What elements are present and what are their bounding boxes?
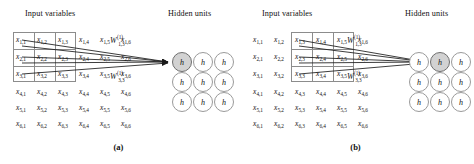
panel-a-caption: (a) (0, 142, 237, 152)
panel-a: Input variables Hidden units x1,1x1,2x1,… (0, 0, 237, 164)
panel-b-caption: (b) (237, 142, 474, 152)
hidden-unit-label: h (201, 78, 205, 87)
hidden-unit-label: h (222, 78, 226, 87)
hidden-unit-label: h (459, 78, 463, 87)
panel-b-hidden-unit-1-2-active: h (430, 52, 450, 72)
panel-a-hidden-unit-3-2: h (193, 92, 213, 112)
panel-a-hidden-unit-3-1: h (172, 92, 192, 112)
panel-a-hidden-unit-2-2: h (193, 72, 213, 92)
hidden-unit-label: h (180, 78, 184, 87)
panel-b-hidden-unit-3-2: h (430, 92, 450, 112)
hidden-unit-label: h (438, 78, 442, 87)
hidden-unit-label: h (180, 98, 184, 107)
panel-a-hidden-unit-1-2: h (193, 52, 213, 72)
panel-b-hidden-unit-1-1: h (409, 52, 429, 72)
hidden-unit-label: h (459, 98, 463, 107)
panel-b-hidden-unit-3-1: h (409, 92, 429, 112)
hidden-unit-label: h (438, 58, 442, 67)
hidden-unit-label: h (222, 98, 226, 107)
panel-b-hidden-unit-1-3: h (451, 52, 471, 72)
panel-a-hidden-unit-3-3: h (214, 92, 234, 112)
panel-a-hidden-unit-2-3: h (214, 72, 234, 92)
panel-a-hidden-unit-2-1: h (172, 72, 192, 92)
hidden-unit-label: h (459, 58, 463, 67)
hidden-unit-label: h (222, 58, 226, 67)
panel-a-hidden-unit-1-3: h (214, 52, 234, 72)
hidden-unit-label: h (417, 78, 421, 87)
hidden-unit-label: h (201, 58, 205, 67)
panel-b-hidden-unit-2-1: h (409, 72, 429, 92)
panel-b-hidden-unit-2-3: h (451, 72, 471, 92)
hidden-unit-label: h (417, 58, 421, 67)
panel-a-hidden-unit-1-1-active: h (172, 52, 192, 72)
hidden-unit-label: h (417, 98, 421, 107)
hidden-unit-label: h (438, 98, 442, 107)
hidden-unit-label: h (201, 98, 205, 107)
panel-b-hidden-unit-2-2: h (430, 72, 450, 92)
hidden-unit-label: h (180, 58, 184, 67)
figure-receptive-fields: Input variables Hidden units x1,1x1,2x1,… (0, 0, 474, 164)
panel-b: Input variables Hidden units x1,1x1,2x1,… (237, 0, 474, 164)
panel-b-hidden-unit-3-3: h (451, 92, 471, 112)
